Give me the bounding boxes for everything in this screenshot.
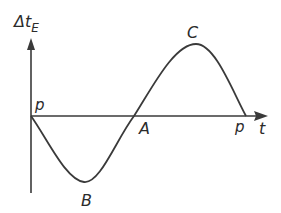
point-label-end: p <box>234 118 245 136</box>
wave-curve <box>31 44 246 182</box>
point-label-origin: p <box>34 96 45 114</box>
wave-diagram: ΔtE p B A C p t <box>0 0 281 213</box>
y-axis-arrow-icon <box>27 38 35 50</box>
x-axis-label: t <box>259 119 266 138</box>
point-label-crossing: A <box>138 119 150 138</box>
point-label-peak: C <box>187 23 199 42</box>
point-label-trough: B <box>81 191 92 210</box>
y-axis-label: ΔtE <box>12 12 39 35</box>
